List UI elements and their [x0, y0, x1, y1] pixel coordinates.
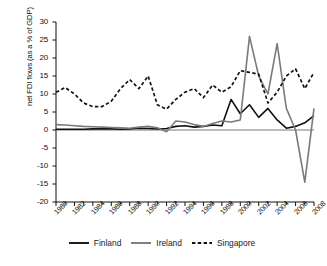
y-tick-label: 10 — [26, 89, 48, 98]
legend-label: Ireland — [156, 238, 182, 248]
legend-label: Finland — [94, 238, 121, 248]
legend-label: Singapore — [217, 238, 255, 248]
y-tick-label: 0 — [26, 125, 48, 134]
y-tick-label: -20 — [26, 197, 48, 206]
y-tick-label: -5 — [26, 143, 48, 152]
y-tick-label: 25 — [26, 35, 48, 44]
y-tick-label: 5 — [26, 107, 48, 116]
series-line-ireland — [56, 36, 314, 182]
series-line-singapore — [56, 69, 314, 109]
legend-item-finland: Finland — [68, 238, 121, 248]
y-tick-label: -15 — [26, 179, 48, 188]
y-tick-label: 20 — [26, 53, 48, 62]
y-tick-label: 30 — [26, 17, 48, 26]
legend-swatch-finland — [68, 239, 90, 247]
legend-item-ireland: Ireland — [130, 238, 182, 248]
y-tick-label: 15 — [26, 71, 48, 80]
legend-swatch-singapore — [191, 239, 213, 247]
y-tick-label: -10 — [26, 161, 48, 170]
series-line-finland — [56, 99, 314, 129]
legend-item-singapore: Singapore — [191, 238, 255, 248]
chart-legend: FinlandIrelandSingapore — [0, 238, 323, 248]
legend-swatch-ireland — [130, 239, 152, 247]
